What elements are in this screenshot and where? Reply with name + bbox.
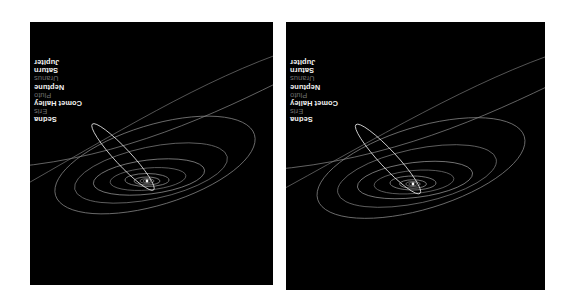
legend-item-pluto[interactable]: Pluto [290,91,338,99]
legend-item-jupiter[interactable]: Jupiter [34,58,82,66]
legend-item-sedna[interactable]: Sedna [290,115,338,123]
orbit-path-comet-halley [350,119,427,199]
legend-item-eris[interactable]: Eris [34,107,82,115]
orbit-path-comet-halley [86,119,159,196]
right-panel-legend: Sedna Eris Comet Halley Pluto Neptune Ur… [290,58,338,123]
left-panel-rotated-content: Sedna Eris Comet Halley Pluto Neptune Ur… [30,22,273,285]
legend-item-comet-halley[interactable]: Comet Halley [290,99,338,107]
legend-item-neptune[interactable]: Neptune [290,83,338,91]
right-panel-rotated-content: Sedna Eris Comet Halley Pluto Neptune Ur… [286,22,545,290]
sun-marker [146,180,149,183]
legend-item-uranus[interactable]: Uranus [290,74,338,82]
right-panel[interactable]: Sedna Eris Comet Halley Pluto Neptune Ur… [286,22,545,290]
legend-item-eris[interactable]: Eris [290,107,338,115]
legend-item-pluto[interactable]: Pluto [34,91,82,99]
legend-item-uranus[interactable]: Uranus [34,74,82,82]
left-panel[interactable]: Sedna Eris Comet Halley Pluto Neptune Ur… [30,22,273,285]
legend-item-neptune[interactable]: Neptune [34,83,82,91]
left-panel-legend: Sedna Eris Comet Halley Pluto Neptune Ur… [34,58,82,123]
legend-item-comet-halley[interactable]: Comet Halley [34,99,82,107]
orbit-path-pluto [69,131,232,214]
legend-item-saturn[interactable]: Saturn [290,66,338,74]
sun-marker [412,183,415,186]
figure-canvas: Sedna Eris Comet Halley Pluto Neptune Ur… [0,0,571,307]
legend-item-saturn[interactable]: Saturn [34,66,82,74]
legend-item-sedna[interactable]: Sedna [34,115,82,123]
orbit-path-eris [306,97,537,239]
legend-item-jupiter[interactable]: Jupiter [290,58,338,66]
